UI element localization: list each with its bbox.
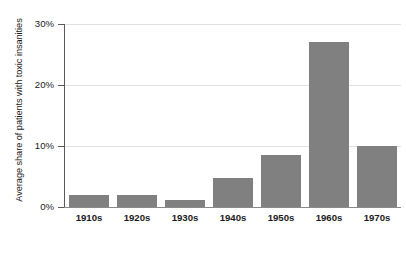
bar [261, 155, 301, 207]
y-axis-tick [58, 146, 64, 147]
bar [213, 178, 253, 207]
y-axis-tick-label: 30% [16, 19, 54, 29]
plot-area [65, 24, 401, 207]
gridline [65, 24, 401, 25]
bar [357, 146, 397, 207]
bar-chart: Average share of patients with toxic ins… [0, 0, 406, 256]
y-axis-tick-label: 10% [16, 141, 54, 151]
bar [117, 195, 157, 207]
y-axis-tick-label: 20% [16, 80, 54, 90]
y-axis-title: Average share of patients with toxic ins… [12, 10, 26, 210]
y-axis-tick [58, 85, 64, 86]
bar [165, 200, 205, 207]
x-axis-tick-label: 1970s [347, 212, 406, 224]
y-axis-tick [58, 207, 64, 208]
bar [69, 195, 109, 207]
y-axis-tick-label: 0% [16, 202, 54, 212]
x-axis-line [58, 207, 401, 208]
bar [309, 42, 349, 207]
y-axis-line [64, 24, 65, 208]
y-axis-tick [58, 24, 64, 25]
gridline [65, 146, 401, 147]
gridline [65, 85, 401, 86]
